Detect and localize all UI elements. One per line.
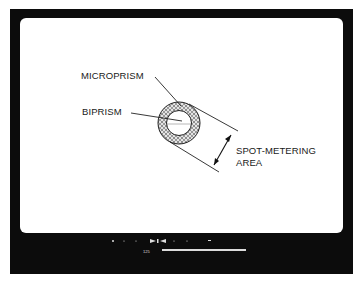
- metering-bar: [162, 249, 246, 251]
- microprism-leader: [155, 77, 181, 106]
- microprism-label: MICROPRISM: [81, 70, 144, 81]
- extension-line-bottom: [170, 142, 219, 172]
- under-arrow-icon: [160, 239, 166, 243]
- exposure-scale: [112, 239, 211, 243]
- over-arrow-icon: [150, 239, 156, 243]
- shutter-speed-readout: 125: [143, 249, 150, 254]
- biprism-label: BIPRISM: [82, 106, 122, 117]
- spot-metering-label: SPOT-METERING: [236, 145, 316, 156]
- spot-metering-label-area: AREA: [236, 157, 262, 168]
- dimension-arrow-icon: [214, 135, 231, 165]
- microprism-ring: [158, 102, 200, 144]
- diagram-graphics: [0, 0, 357, 281]
